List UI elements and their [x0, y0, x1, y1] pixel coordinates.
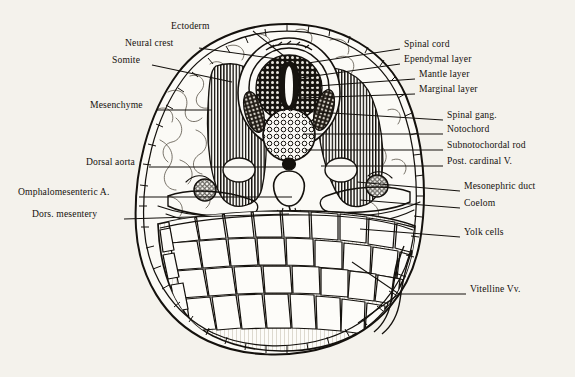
post-cardinal-vein-right [325, 158, 357, 182]
label-subnotochordal-rod: Subnotochordal rod [447, 139, 526, 150]
label-mesonephric-duct: Mesonephric duct [464, 180, 535, 191]
central-canal [285, 66, 293, 106]
embryo-body [136, 24, 424, 355]
label-notochord: Notochord [447, 123, 489, 134]
dorsal-aorta [274, 171, 305, 206]
label-ependymal-layer: Ependymal layer [404, 53, 472, 64]
post-cardinal-vein-left [223, 158, 255, 182]
label-coelom: Coelom [464, 197, 495, 208]
mesonephric-duct-left [194, 179, 216, 201]
label-mantle-layer: Mantle layer [419, 68, 470, 79]
label-dors-mesentery: Dors. mesentery [32, 208, 97, 219]
label-post-cardinal-v: Post. cardinal V. [447, 155, 512, 166]
label-spinal-cord: Spinal cord [404, 38, 450, 49]
label-mesenchyme: Mesenchyme [90, 99, 143, 110]
mesonephric-duct-right [366, 175, 388, 197]
label-omphalomesenteric-a: Omphalomesenteric A. [18, 186, 109, 197]
label-neural-crest: Neural crest [125, 37, 173, 48]
subnotochordal-rod [283, 158, 296, 170]
label-somite: Somite [112, 54, 140, 65]
label-dorsal-aorta: Dorsal aorta [86, 156, 135, 167]
label-spinal-gang: Spinal gang. [447, 109, 497, 120]
label-marginal-layer: Marginal layer [419, 83, 478, 94]
notochord [263, 109, 315, 161]
label-yolk-cells: Yolk cells [464, 226, 504, 237]
label-vitelline-vv: Vitelline Vv. [470, 283, 521, 294]
label-ectoderm: Ectoderm [171, 20, 210, 31]
